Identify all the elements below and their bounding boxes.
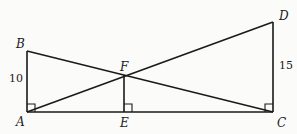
segment-ad	[27, 22, 273, 112]
point-label-c: C	[277, 116, 286, 130]
point-label-a: A	[15, 115, 25, 129]
geometry-diagram: B A F E D C 10 15	[0, 0, 297, 134]
measure-cd: 15	[279, 59, 293, 72]
point-label-f: F	[119, 60, 129, 74]
measure-ab: 10	[9, 72, 23, 85]
point-label-d: D	[278, 9, 289, 23]
segment-bc	[27, 51, 273, 112]
point-label-b: B	[15, 37, 25, 51]
point-label-e: E	[119, 116, 129, 130]
right-angle-marker-e	[124, 104, 132, 112]
